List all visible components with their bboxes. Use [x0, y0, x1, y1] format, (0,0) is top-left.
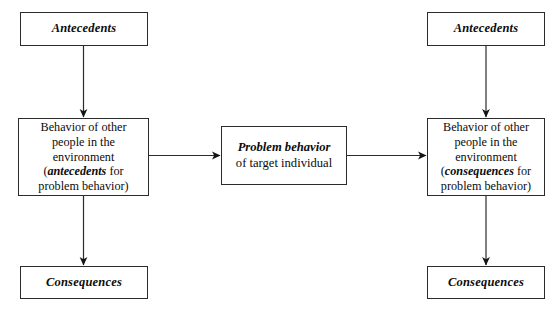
env-left-line-2: people in the	[52, 135, 115, 149]
env-left-line-4-suffix: for	[106, 164, 123, 178]
node-antecedents-left-label: Antecedents	[21, 21, 147, 36]
env-right-line-4-suffix: for	[514, 164, 531, 178]
env-right-line-5: problem behavior)	[441, 179, 531, 193]
env-left-line-3: environment	[53, 150, 115, 164]
problem-behavior-line-2: of target individual	[226, 156, 342, 171]
env-right-line-1: Behavior of other	[443, 120, 529, 134]
node-consequences-left-label: Consequences	[21, 275, 147, 290]
diagram-canvas: Antecedents Behavior of other people in …	[0, 0, 559, 315]
node-antecedents-right-label: Antecedents	[428, 21, 544, 36]
node-consequences-left: Consequences	[20, 266, 148, 299]
node-environment-right-text: Behavior of other people in the environm…	[428, 120, 544, 194]
node-environment-left-text: Behavior of other people in the environm…	[19, 120, 148, 194]
env-left-line-1: Behavior of other	[41, 120, 127, 134]
node-antecedents-left: Antecedents	[20, 12, 148, 46]
env-right-line-2: people in the	[455, 135, 518, 149]
node-consequences-right-label: Consequences	[428, 275, 544, 290]
env-right-line-3: environment	[455, 150, 517, 164]
env-left-line-4-emphasis: antecedents	[47, 164, 106, 178]
node-environment-right: Behavior of other people in the environm…	[427, 118, 545, 196]
node-problem-behavior: Problem behavior of target individual	[221, 126, 347, 185]
env-left-line-5: problem behavior)	[38, 179, 128, 193]
node-consequences-right: Consequences	[427, 266, 545, 299]
node-antecedents-right: Antecedents	[427, 12, 545, 46]
env-right-line-4-emphasis: consequences	[445, 164, 514, 178]
node-problem-behavior-text: Problem behavior of target individual	[222, 140, 346, 171]
problem-behavior-line-1: Problem behavior	[226, 140, 342, 155]
node-environment-left: Behavior of other people in the environm…	[18, 118, 149, 196]
